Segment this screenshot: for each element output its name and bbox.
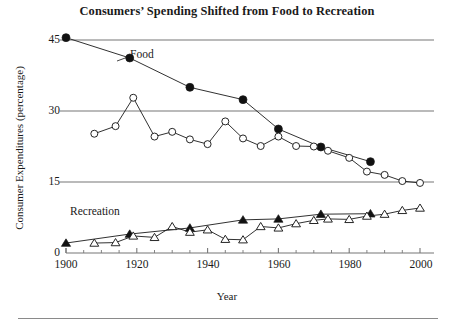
marker-open-circle-1-12 [310, 143, 317, 150]
marker-open-circle-1-8 [240, 135, 247, 142]
marker-open-circle-1-13 [324, 147, 331, 154]
marker-open-circle-1-9 [257, 143, 264, 150]
marker-open-circle-1-7 [222, 118, 229, 125]
series-line-2 [66, 214, 370, 243]
marker-filled-circle-0-2 [186, 83, 194, 91]
marker-filled-circle-0-1 [126, 54, 134, 62]
marker-open-circle-1-17 [399, 178, 406, 185]
marker-open-triangle-3-4 [168, 222, 177, 229]
marker-open-circle-1-3 [151, 133, 158, 140]
series-line-0 [66, 38, 370, 162]
marker-open-triangle-3-7 [221, 235, 230, 242]
marker-open-circle-1-14 [346, 154, 353, 161]
marker-filled-circle-0-4 [274, 125, 282, 133]
marker-open-circle-1-15 [363, 168, 370, 175]
marker-open-circle-1-2 [130, 94, 137, 101]
marker-open-triangle-3-9 [256, 222, 265, 229]
axis-ticks [66, 248, 434, 253]
marker-open-circle-1-10 [275, 133, 282, 140]
marker-filled-circle-0-5 [317, 143, 325, 151]
marker-open-circle-1-0 [91, 130, 98, 137]
marker-open-circle-1-1 [112, 123, 119, 130]
marker-open-circle-1-5 [186, 136, 193, 143]
marker-open-circle-1-18 [417, 179, 424, 186]
series-markers [61, 34, 424, 247]
marker-open-circle-1-4 [169, 128, 176, 135]
marker-open-circle-1-6 [204, 141, 211, 148]
chart-figure: Consumers’ Spending Shifted from Food to… [0, 0, 454, 326]
marker-filled-circle-0-0 [62, 34, 70, 42]
marker-open-circle-1-16 [381, 171, 388, 178]
marker-open-triangle-3-18 [416, 204, 425, 211]
marker-open-triangle-3-1 [111, 239, 120, 246]
footer-divider [18, 318, 438, 319]
marker-filled-circle-0-6 [366, 158, 374, 166]
gridlines [60, 40, 434, 182]
marker-open-circle-1-11 [293, 143, 300, 150]
plot-area [0, 0, 454, 326]
marker-filled-circle-0-3 [239, 96, 247, 104]
marker-open-triangle-3-6 [203, 226, 212, 233]
